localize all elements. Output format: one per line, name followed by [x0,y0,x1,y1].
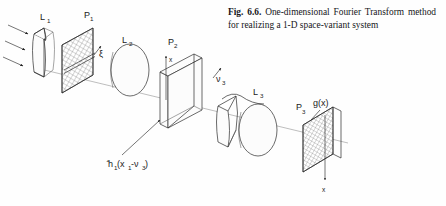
label-lens-1: L 1 [40,12,51,24]
plane3-sublabel: 3 [302,108,306,115]
figure-caption: Fig. 6.6. One-dimensional Fourier Transf… [228,6,436,32]
hatched-plane-P3 [303,107,341,172]
figure-page: L 1 P 1 ξ L 2 [0,0,446,206]
mask-arg-close: ) [145,159,148,169]
cylindrical-lens-L1 [33,28,55,77]
spherical-lens-L3b [239,104,278,156]
xi-axis-indicator: ξ [94,46,103,59]
lens2-sublabel: 2 [129,40,133,47]
mask-h-label: h [108,159,113,169]
plane2-sublabel: 2 [174,42,178,49]
label-lens-3: L 3 [253,87,264,99]
mask-function-label: ̂ h 1 (x 1 -ν 3 ) [106,159,148,171]
mask-arg-tail: -ν [131,159,139,169]
lens3-label: L [253,87,258,97]
figure-number: Fig. 6.6. [228,7,261,17]
lens3-sublabel: 3 [260,92,264,99]
input-beam-arrows [3,25,28,66]
nu3-axis-indicator: ν 3 [213,68,226,86]
plane3-axis-label: x [322,186,326,193]
xi-label: ξ [99,49,103,59]
hatched-plane-P1 [62,28,95,93]
lens1-label: L [40,12,45,22]
cylindrical-lens-L3a [217,96,238,147]
label-plane-3: P 3 [296,102,306,115]
lens2-label: L [122,35,127,45]
plane2-axis-label: x [169,56,173,63]
mask-arg-open: (x [117,159,125,169]
label-plane-2: P 2 [168,37,178,49]
label-plane-1: P 1 [84,10,94,22]
nu3-sublabel: 3 [222,79,226,86]
nu3-label: ν [216,74,221,84]
spherical-lens-L2 [111,44,150,96]
plane1-sublabel: 1 [90,15,94,22]
g-of-x-label: g(x) [313,98,329,108]
lens1-sublabel: 1 [47,17,51,24]
mask-function-leader [122,120,160,155]
